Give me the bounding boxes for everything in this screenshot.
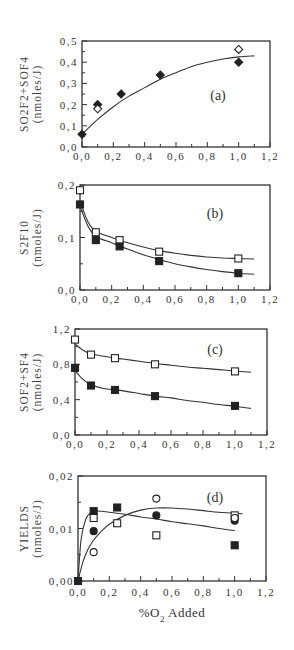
square-marker	[156, 248, 163, 255]
y-tick-label: 0,0	[53, 429, 71, 441]
y-axis-label: YIELDS	[18, 505, 30, 552]
fit-curve	[75, 344, 251, 372]
fit-curve	[82, 56, 254, 134]
diamond-marker	[117, 90, 125, 98]
x-tick-label: 1,0	[226, 586, 244, 598]
diamond-marker	[235, 45, 243, 53]
circle-marker	[153, 512, 160, 519]
x-tick-label: 1,0	[230, 150, 248, 162]
square-marker	[235, 255, 242, 262]
fit-curve	[78, 508, 243, 581]
square-marker	[114, 504, 121, 511]
square-marker	[90, 515, 97, 522]
fit-curve	[80, 201, 254, 259]
fit-curve	[75, 371, 251, 409]
y-tick-label: 0,0	[58, 284, 76, 296]
square-marker	[156, 258, 163, 265]
y-axis-label: SOF2+SF4	[18, 352, 30, 412]
panel-label: (c)	[207, 342, 223, 358]
x-tick-label: 1,2	[257, 586, 275, 598]
square-marker	[153, 532, 160, 539]
panel-a: 0,00,20,40,60,81,01,20,00,10,20,30,40,5S…	[18, 35, 279, 162]
square-marker	[90, 508, 97, 515]
y-tick-label: 0,1	[58, 232, 76, 244]
y-tick-label: 0,3	[60, 77, 78, 89]
square-marker	[114, 520, 121, 527]
x-tick-label: 0,4	[132, 586, 150, 598]
panel-label: (d)	[207, 490, 224, 506]
x-tick-label: 0,8	[198, 150, 216, 162]
y-tick-label: 0,1	[60, 120, 78, 132]
x-tick-label: 0,2	[100, 586, 118, 598]
x-tick-label: 0,2	[103, 293, 121, 305]
square-marker	[231, 542, 238, 549]
square-marker	[232, 402, 239, 409]
figure: 0,00,20,40,60,81,01,20,00,10,20,30,40,5S…	[0, 0, 294, 650]
fit-curve	[80, 206, 254, 274]
square-marker	[92, 237, 99, 244]
plot-frame	[78, 476, 266, 581]
square-marker	[72, 364, 79, 371]
square-marker	[152, 361, 159, 368]
x-tick-label: 1,2	[258, 438, 276, 450]
panel-label: (a)	[210, 88, 226, 104]
x-axis-label: %O2 Added	[139, 605, 205, 624]
x-tick-label: 1,2	[261, 293, 279, 305]
y-tick-label: 0,0	[60, 141, 78, 153]
panel-b: 0,00,20,40,60,81,01,20,00,10,2S2F10(nmol…	[18, 179, 279, 305]
x-tick-label: 0,6	[163, 586, 181, 598]
x-tick-label: 0,4	[136, 150, 154, 162]
square-marker	[92, 229, 99, 236]
y-axis-units: (nmoles/J)	[31, 499, 44, 558]
x-tick-label: 1,2	[261, 150, 279, 162]
y-tick-label: 0,8	[53, 358, 71, 370]
square-marker	[88, 351, 95, 358]
y-axis-units: (nmoles/J)	[31, 208, 44, 267]
y-tick-label: 0,2	[58, 179, 76, 191]
panel-label: (b)	[207, 206, 224, 222]
x-tick-label: 0,8	[198, 293, 216, 305]
square-marker	[235, 270, 242, 277]
y-tick-label: 0,5	[60, 35, 78, 47]
fit-curve	[78, 511, 235, 581]
y-tick-label: 0,02	[49, 470, 74, 482]
y-tick-label: 0,01	[49, 523, 74, 535]
x-tick-label: 1,0	[229, 293, 247, 305]
x-tick-label: 0,8	[194, 586, 212, 598]
circle-marker	[90, 549, 97, 556]
y-axis-label: S2F10	[18, 220, 30, 255]
square-marker	[112, 355, 119, 362]
y-tick-label: 0,2	[60, 99, 78, 111]
y-axis-units: (nmoles/J)	[31, 353, 44, 412]
square-marker	[72, 336, 79, 343]
square-marker	[152, 393, 159, 400]
plot-frame	[75, 329, 267, 435]
circle-marker	[153, 495, 160, 502]
diamond-marker	[235, 58, 243, 66]
x-tick-label: 0,4	[130, 438, 148, 450]
x-tick-label: 1,0	[226, 438, 244, 450]
x-tick-label: 0,4	[134, 293, 152, 305]
panel-d: 0,00,20,40,60,81,01,20,000,010,02YIELDS(…	[18, 470, 275, 598]
y-tick-label: 0,4	[53, 394, 71, 406]
square-marker	[116, 243, 123, 250]
x-tick-label: 0,6	[167, 150, 185, 162]
x-tick-label: 0,6	[162, 438, 180, 450]
y-axis-label: SO2F2+SOF4	[18, 56, 30, 132]
x-tick-label: 0,0	[69, 586, 87, 598]
y-tick-label: 0,00	[49, 575, 74, 587]
circle-marker	[90, 528, 97, 535]
y-tick-label: 1,2	[53, 323, 71, 335]
y-axis-units: (nmoles/J)	[31, 65, 44, 124]
panel-c: 0,00,20,40,60,81,01,20,00,40,81,2SOF2+SF…	[18, 323, 276, 450]
x-tick-label: 0,2	[104, 150, 122, 162]
square-marker	[232, 368, 239, 375]
x-tick-label: 0,2	[98, 438, 116, 450]
x-tick-label: 0,8	[194, 438, 212, 450]
circle-marker	[231, 515, 238, 522]
square-marker	[88, 382, 95, 389]
square-marker	[77, 201, 84, 208]
square-marker	[75, 578, 82, 585]
square-marker	[77, 187, 84, 194]
square-marker	[112, 386, 119, 393]
